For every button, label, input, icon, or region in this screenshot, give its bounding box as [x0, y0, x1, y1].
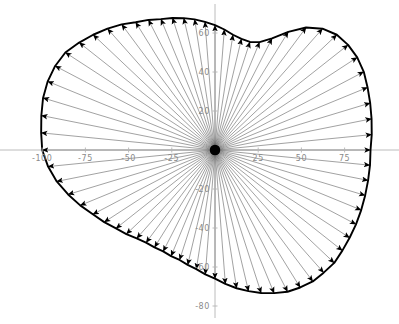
vector-arrow: [171, 150, 215, 256]
vector-arrow: [215, 150, 225, 284]
vector-arrow: [215, 150, 274, 293]
x-tick-label: 50: [296, 154, 307, 163]
y-tick-label: 40: [199, 68, 210, 77]
vector-arrow: [215, 150, 261, 293]
vector-arrow: [215, 150, 249, 291]
y-tick-label: -40: [195, 224, 210, 233]
vector-arrow: [215, 150, 356, 224]
y-tick-label: 60: [199, 29, 210, 38]
vector-arrow: [205, 22, 215, 150]
vector-arrow: [215, 29, 224, 150]
vector-arrow: [184, 18, 215, 150]
vector-arrow: [55, 66, 215, 150]
vector-arrow: [161, 19, 215, 150]
origin-core: [210, 145, 220, 155]
x-tick-label: -50: [121, 154, 136, 163]
vector-arrow: [80, 150, 215, 205]
vector-arrow: [215, 72, 364, 150]
axis-ticks: [42, 33, 344, 306]
vector-arrow: [188, 150, 215, 265]
vector-arrow: [215, 135, 372, 150]
radial-vector-field-figure: -100-75-50-25255075604020-20-40-60-80: [0, 0, 399, 324]
x-tick-label: 75: [339, 154, 350, 163]
vector-arrow: [215, 103, 370, 150]
x-tick-label: -75: [78, 154, 93, 163]
x-tick-label: -25: [164, 154, 179, 163]
vector-arrow: [41, 133, 215, 150]
y-tick-label: -20: [195, 185, 210, 194]
vector-arrow: [43, 98, 215, 150]
vector-arrow: [93, 150, 215, 214]
vector-arrow: [215, 87, 368, 150]
vector-arrow: [215, 42, 260, 150]
vector-arrow: [48, 81, 215, 150]
vector-arrow: [205, 150, 215, 274]
y-tick-label: -80: [195, 302, 210, 311]
x-tick-label: -100: [32, 154, 53, 163]
x-tick-label: 25: [252, 154, 263, 163]
vector-arrow: [215, 39, 241, 150]
y-tick-label: 20: [199, 107, 210, 116]
origin-cluster: [210, 145, 220, 155]
y-tick-label: -60: [195, 263, 210, 272]
